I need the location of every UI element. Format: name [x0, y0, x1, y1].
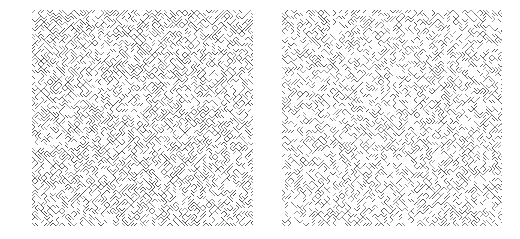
texture-panel-right — [282, 10, 502, 226]
texture-panel-left — [32, 10, 253, 226]
